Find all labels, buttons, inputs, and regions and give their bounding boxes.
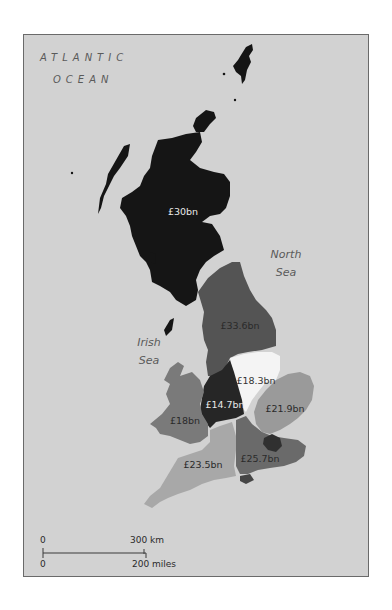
irish-sea-line1: Irish xyxy=(132,334,166,352)
isle-of-wight xyxy=(240,474,254,484)
north-england-value-label: £33.6bn xyxy=(220,320,259,331)
north-sea-label: North Sea xyxy=(264,246,308,282)
east-midlands-value-label: £18.3bn xyxy=(236,375,275,386)
scale-miles-label: 200 miles xyxy=(132,559,176,569)
shetland-islands xyxy=(223,44,253,101)
ocean-label: OCEAN xyxy=(53,74,114,85)
south-east-value-label: £25.7bn xyxy=(240,453,279,464)
east-england-value-label: £21.9bn xyxy=(265,403,304,414)
scotland-value-label: £30bn xyxy=(168,206,198,217)
north-sea-line1: North xyxy=(264,246,308,264)
scale-km-label: 300 km xyxy=(130,535,164,545)
scale-bar xyxy=(43,548,146,558)
south-west-value-label: £23.5bn xyxy=(183,459,222,470)
atlantic-ocean-label: ATLANTIC xyxy=(40,52,128,63)
scale-km-zero: 0 xyxy=(40,535,46,545)
region-wales xyxy=(150,362,208,444)
scale-miles-zero: 0 xyxy=(40,559,46,569)
uk-regions-map xyxy=(0,0,392,610)
north-sea-line2: Sea xyxy=(264,264,308,282)
arran-island xyxy=(150,252,156,264)
irish-sea-label: Irish Sea xyxy=(132,334,166,370)
irish-sea-line2: Sea xyxy=(132,352,166,370)
west-midlands-value-label: £14.7bn xyxy=(205,399,244,410)
wales-value-label: £18bn xyxy=(170,415,200,426)
